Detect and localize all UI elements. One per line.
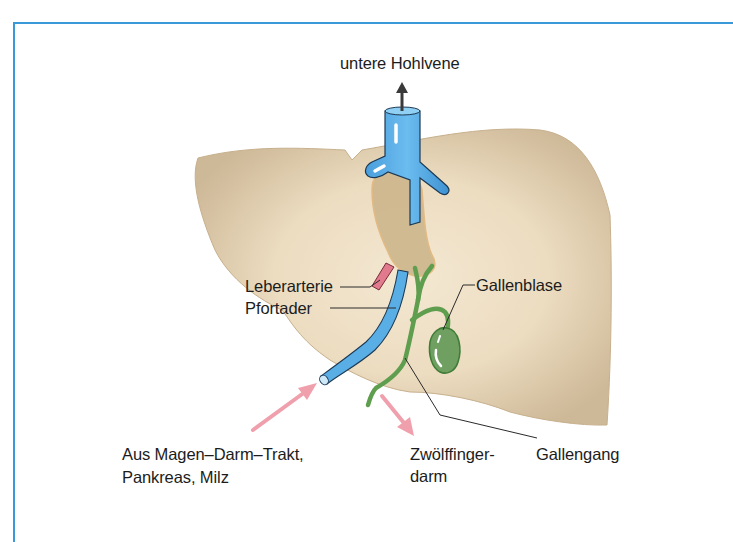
label-bile-duct: Gallengang: [536, 444, 619, 464]
label-duodenum-line1: Zwölffinger-: [410, 444, 495, 464]
inflow-arrow-icon: [253, 383, 317, 430]
label-gallbladder: Gallenblase: [476, 275, 562, 295]
duodenum-arrow-icon: [382, 396, 414, 436]
label-duodenum-line2: darm: [410, 466, 447, 486]
label-inflow-line2: Pankreas, Milz: [122, 467, 229, 487]
gallbladder: [429, 328, 459, 373]
label-portal-vein: Pfortader: [245, 298, 312, 318]
label-hepatic-artery: Leberarterie: [245, 276, 333, 296]
label-inflow-line1: Aus Magen–Darm–Trakt,: [122, 444, 304, 464]
label-vena-cava: untere Hohlvene: [340, 53, 460, 73]
